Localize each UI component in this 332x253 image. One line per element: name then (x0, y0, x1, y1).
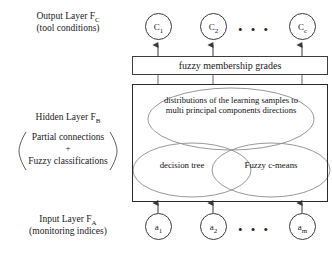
label-hidden-layer: Hidden Layer FB (4, 111, 132, 123)
hidden-layer-paren-group: Partial connections + Fuzzy classificati… (4, 131, 132, 171)
input-node-a1-label: a1 (155, 222, 163, 232)
output-node-cc-label: Cc (298, 22, 307, 32)
connector-group-output (158, 75, 302, 84)
paren-line-fuzzy-classifications: Fuzzy classifications (28, 155, 107, 167)
input-node-am-label: am (298, 222, 307, 232)
network-architecture-diagram: Output Layer FC (tool conditions) Hidden… (0, 0, 332, 253)
ellipse-decision-tree-text: decision tree (144, 160, 220, 171)
label-hidden-layer-line1: Hidden Layer FB (4, 111, 132, 123)
output-node-c1[interactable]: C1 (145, 13, 172, 40)
input-node-a1[interactable]: a1 (145, 213, 172, 240)
left-paren-icon (18, 131, 27, 171)
ellipse-distributions-text: distributions of the learning samples to… (160, 95, 302, 116)
paren-line-plus: + (28, 143, 107, 155)
ellipse-fuzzy-cmeans-text: Fuzzy c-means (228, 160, 314, 171)
label-input-layer-line1: Input Layer FA (6, 213, 130, 225)
label-output-layer: Output Layer FC (tool conditions) (6, 10, 130, 34)
input-layer-ellipsis: • • • (238, 223, 271, 236)
fuzzy-membership-grades-label: fuzzy membership grades (179, 60, 282, 71)
output-node-cc[interactable]: Cc (289, 13, 316, 40)
arrow-group-input-to-box (158, 203, 302, 213)
label-output-layer-line1: Output Layer FC (6, 10, 130, 22)
input-node-am[interactable]: am (289, 213, 316, 240)
output-node-c2[interactable]: C2 (200, 13, 227, 40)
output-node-c2-label: C2 (209, 22, 219, 32)
paren-line-partial-connections: Partial connections (28, 131, 107, 143)
label-output-layer-line2: (tool conditions) (6, 22, 130, 34)
output-node-c1-label: C1 (154, 22, 164, 32)
distributions-line1: distributions of the learning (164, 95, 259, 105)
label-hidden-layer-subscript: B (96, 117, 101, 125)
distributions-line3: components directions (219, 105, 297, 115)
hidden-layer-paren-text: Partial connections + Fuzzy classificati… (27, 131, 108, 171)
input-node-a2[interactable]: a2 (200, 213, 227, 240)
right-paren-icon (109, 131, 118, 171)
output-layer-ellipsis: • • • (238, 23, 271, 36)
label-input-layer: Input Layer FA (monitoring indices) (6, 213, 130, 237)
input-node-a2-label: a2 (210, 222, 218, 232)
arrow-group-bar-to-output (158, 45, 302, 56)
label-input-layer-line2: (monitoring indices) (6, 225, 130, 237)
fuzzy-membership-grades-bar[interactable]: fuzzy membership grades (132, 56, 328, 75)
